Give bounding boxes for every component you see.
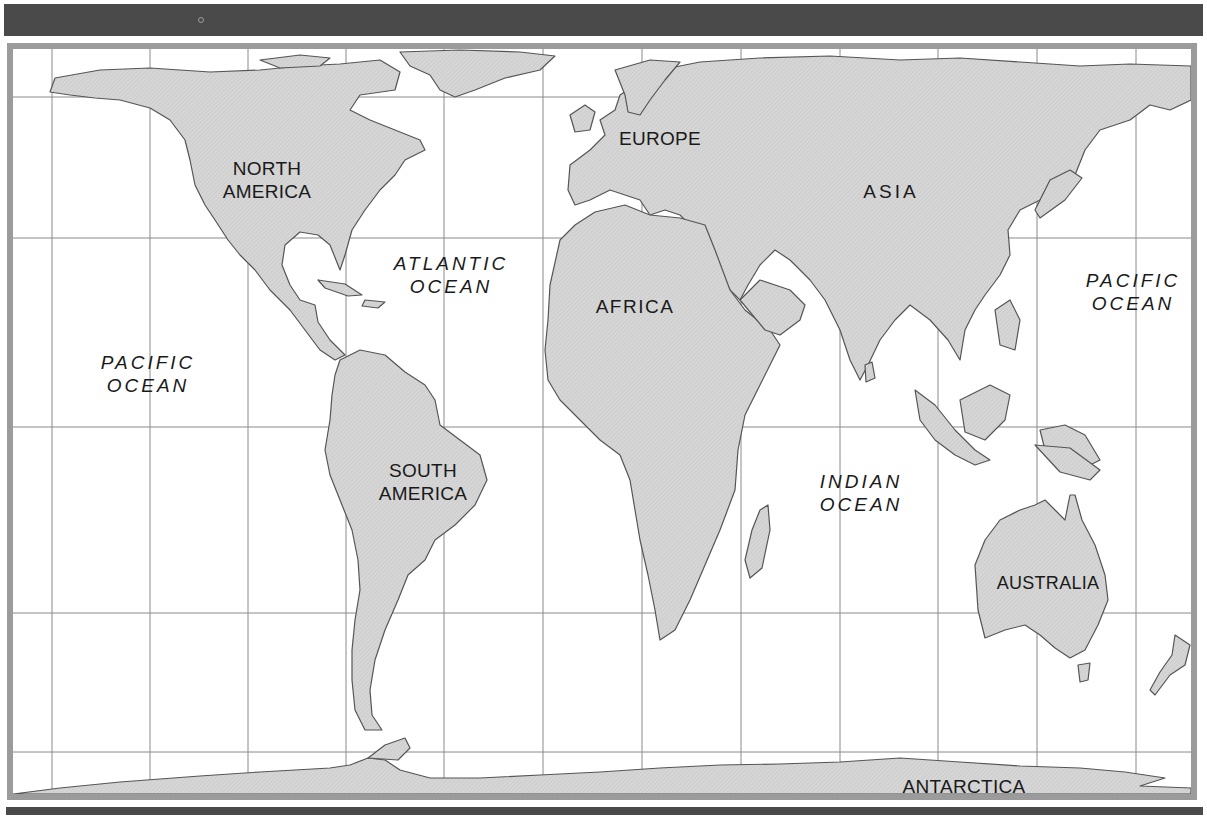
- greenland-shape: [400, 50, 555, 97]
- continent-label-south-america: SOUTH AMERICA: [363, 459, 483, 505]
- continent-label-north-america: NORTH AMERICA: [207, 157, 327, 203]
- continent-label-antarctica: ANTARCTICA: [889, 775, 1039, 798]
- ocean-label-indian: INDIAN OCEAN: [806, 470, 916, 516]
- world-map-frame: NORTH AMERICA SOUTH AMERICA EUROPE ASIA …: [7, 43, 1197, 800]
- continent-label-europe: EUROPE: [605, 127, 715, 150]
- landmasses: [13, 50, 1191, 794]
- ocean-label-atlantic: ATLANTIC OCEAN: [386, 252, 516, 298]
- north-america-shape: [50, 60, 425, 360]
- ocean-label-pacific-east: PACIFIC OCEAN: [1078, 269, 1188, 315]
- continent-label-africa: AFRICA: [585, 295, 685, 318]
- continent-label-asia: ASIA: [846, 180, 936, 203]
- continent-label-australia: AUSTRALIA: [983, 572, 1113, 595]
- south-america-shape: [325, 350, 487, 730]
- top-bar: [4, 4, 1203, 36]
- ocean-label-pacific-west: PACIFIC OCEAN: [93, 351, 203, 397]
- small-circle-mark: [198, 17, 204, 23]
- bottom-bar: [6, 807, 1203, 815]
- world-map: [13, 49, 1191, 794]
